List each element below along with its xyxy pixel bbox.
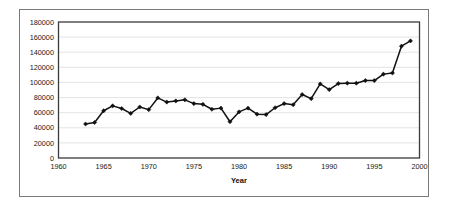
x-axis-tick-label: 1965: [96, 162, 112, 171]
x-axis-tick-label: 1960: [50, 162, 66, 171]
x-axis-tick-label: 1985: [276, 162, 292, 171]
data-point-marker: [345, 81, 349, 85]
plot-area-border: [59, 22, 420, 158]
data-point-marker: [183, 98, 187, 102]
y-axis-tick-label: 40000: [34, 123, 54, 132]
y-axis-tick-label: 160000: [30, 33, 54, 42]
chart-figure: 0200004000060000800001000001200001400001…: [0, 0, 450, 215]
line-chart: 0200004000060000800001000001200001400001…: [0, 0, 450, 215]
x-axis-tick-label: 1995: [366, 162, 382, 171]
data-point-marker: [192, 102, 196, 106]
y-axis-tick-label: 60000: [34, 108, 54, 117]
data-point-marker: [83, 122, 87, 126]
x-axis-title: Year: [231, 176, 247, 185]
data-point-marker: [363, 78, 367, 82]
x-axis-tick-label: 2000: [411, 162, 427, 171]
y-axis-tick-label: 120000: [30, 63, 54, 72]
y-axis-tick-label: 20000: [34, 139, 54, 148]
data-point-marker: [390, 71, 394, 75]
data-point-marker: [354, 81, 358, 85]
x-axis-tick-labels: 196019651970197519801985199019952000: [50, 162, 427, 171]
x-axis-tick-label: 1975: [186, 162, 202, 171]
y-axis-tick-label: 180000: [30, 18, 54, 27]
y-axis-tick-label: 80000: [34, 93, 54, 102]
data-point-marker: [174, 99, 178, 103]
gridlines: [59, 37, 420, 143]
x-axis-tick-label: 1990: [321, 162, 337, 171]
y-axis-tick-label: 140000: [30, 48, 54, 57]
y-axis-tick-labels: 0200004000060000800001000001200001400001…: [30, 18, 54, 163]
x-axis-tick-label: 1980: [231, 162, 247, 171]
y-axis-tick-label: 100000: [30, 78, 54, 87]
x-axis-tick-label: 1970: [141, 162, 157, 171]
